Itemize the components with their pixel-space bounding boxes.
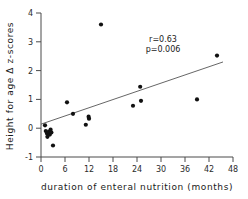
y-tick-label: 4 (28, 9, 33, 18)
data-points-group (43, 22, 219, 147)
x-tick-label: 30 (156, 165, 166, 174)
data-point (87, 117, 91, 121)
data-point (84, 123, 88, 127)
x-tick-label: 24 (132, 165, 142, 174)
data-point (195, 97, 199, 101)
x-tick-label: 18 (108, 165, 118, 174)
data-point (71, 112, 75, 116)
x-tick-label: 0 (38, 165, 43, 174)
y-tick-label: 3 (28, 38, 33, 47)
data-point (49, 130, 53, 134)
data-point (43, 123, 47, 127)
x-axis-label: duration of enteral nutrition (months) (41, 182, 233, 192)
x-tick-label: 42 (204, 165, 214, 174)
y-tick-label: 1 (28, 95, 33, 104)
chart-canvas: Height for age Δ z-scores duration of en… (0, 0, 248, 199)
data-point (139, 99, 143, 103)
data-point (99, 22, 103, 26)
x-tick-label: 48 (228, 165, 238, 174)
y-tick-label: 2 (28, 67, 33, 76)
x-axis-tick-labels: 0 6 12 18 24 30 36 42 48 (38, 165, 238, 174)
y-tick-label: 0 (28, 124, 33, 133)
x-axis-ticks (41, 157, 233, 162)
data-point (215, 54, 219, 58)
x-tick-label: 12 (84, 165, 94, 174)
data-point (138, 85, 142, 89)
data-point (131, 104, 135, 108)
data-point (51, 143, 55, 147)
statistics-annotation-group: r=0.63p=0.006 (146, 35, 181, 54)
x-tick-label: 6 (62, 165, 67, 174)
x-tick-label: 36 (180, 165, 190, 174)
scatter-plot-figure: Height for age Δ z-scores duration of en… (0, 0, 248, 199)
y-axis-label: Height for age Δ z-scores (5, 22, 15, 150)
data-point (65, 100, 69, 104)
y-axis-tick-labels: -1 0 1 2 3 4 (25, 9, 33, 162)
y-tick-label: -1 (25, 153, 33, 162)
correlation-annotation: r=0.63 (149, 35, 177, 44)
regression-line (41, 62, 223, 124)
y-axis-ticks (36, 13, 41, 157)
p-value-annotation: p=0.006 (146, 45, 181, 54)
